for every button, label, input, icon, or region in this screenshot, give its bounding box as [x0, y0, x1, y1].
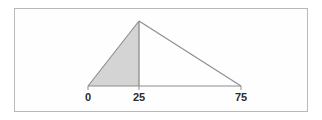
x-tick-label-75: 75: [235, 91, 247, 103]
triangular-distribution-chart: 0 25 75: [0, 0, 322, 120]
x-tick-label-0: 0: [85, 91, 91, 103]
density-right-edge: [139, 21, 241, 86]
figure-root: 0 25 75: [0, 0, 322, 120]
x-tick-label-25: 25: [133, 91, 145, 103]
